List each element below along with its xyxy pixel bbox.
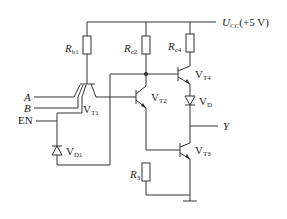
resistor-r3: [142, 163, 150, 181]
rc2-label: Rc2: [123, 42, 138, 56]
supply-label: UCC(+5 V): [222, 16, 269, 30]
vd-label: VD: [199, 95, 212, 109]
rc4-label: Rc4: [167, 40, 182, 54]
input-b: B: [24, 102, 31, 114]
resistor-rb1: [83, 36, 91, 54]
resistor-rc2: [142, 36, 150, 54]
vt1-label: VT1: [83, 103, 99, 117]
vt4-label: VT4: [195, 68, 211, 82]
input-en: EN: [18, 114, 33, 126]
output-y: Y: [223, 120, 231, 132]
vt2-label: VT2: [151, 91, 167, 105]
vt3-label: VT3: [195, 144, 211, 158]
diode-vd1: [52, 146, 62, 155]
resistor-rc4: [186, 34, 194, 52]
vd1-label: VD1: [66, 145, 83, 159]
diode-vd: [185, 96, 195, 105]
r3-label: R3: [129, 168, 141, 182]
circuit-diagram: UCC(+5 V) Rb1 Rc2 Rc4 VT1 A B EN VD1 VT: [0, 0, 287, 219]
rb1-label: Rb1: [64, 42, 79, 56]
